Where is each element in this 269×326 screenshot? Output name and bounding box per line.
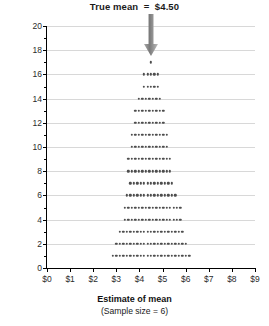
y-tick-minor (44, 62, 47, 63)
x-axis-line (46, 268, 255, 269)
data-point (115, 255, 117, 257)
data-point (143, 230, 145, 232)
y-tick-label: 16 (33, 69, 42, 79)
data-point (139, 182, 141, 184)
y-tick (43, 99, 47, 100)
data-point (138, 109, 140, 111)
x-tick (116, 268, 117, 272)
data-point (152, 134, 154, 136)
data-point (126, 230, 128, 232)
data-point (145, 134, 147, 136)
data-point (162, 134, 164, 136)
data-point (138, 158, 140, 160)
data-point (157, 230, 159, 232)
data-point (158, 134, 160, 136)
data-point (172, 206, 174, 208)
y-tick (43, 220, 47, 221)
data-point (150, 230, 152, 232)
x-tick (255, 268, 256, 272)
data-point (152, 158, 154, 160)
x-tick-label: $0 (42, 274, 51, 284)
data-point (138, 206, 140, 208)
data-point (143, 255, 145, 257)
y-tick (43, 50, 47, 51)
x-tick-label: $5 (158, 274, 167, 284)
y-tick-minor (44, 87, 47, 88)
data-point (129, 230, 131, 232)
data-point (171, 230, 173, 232)
y-tick (43, 147, 47, 148)
data-point (174, 255, 176, 257)
data-point (132, 255, 134, 257)
data-point (148, 158, 150, 160)
x-tick (186, 268, 187, 272)
data-point (167, 182, 169, 184)
data-point (134, 134, 136, 136)
data-point (148, 134, 150, 136)
data-point (181, 255, 183, 257)
y-tick (43, 26, 47, 27)
data-point (148, 206, 150, 208)
x-tick-label: $7 (204, 274, 213, 284)
x-tick (70, 268, 71, 272)
data-point (143, 182, 145, 184)
data-point (153, 255, 155, 257)
data-point (160, 255, 162, 257)
data-point (167, 255, 169, 257)
data-point (131, 206, 133, 208)
data-point (155, 134, 157, 136)
y-tick-minor (44, 38, 47, 39)
data-point (150, 85, 152, 87)
data-point (171, 255, 173, 257)
data-point (150, 255, 152, 257)
data-point (146, 255, 148, 257)
x-tick-label: $8 (227, 274, 236, 284)
data-point (129, 182, 131, 184)
data-point (146, 230, 148, 232)
y-tick-minor (44, 256, 47, 257)
data-point (152, 109, 154, 111)
data-point (141, 206, 143, 208)
data-point (153, 85, 155, 87)
data-point (158, 206, 160, 208)
data-point (157, 255, 159, 257)
data-point (122, 255, 124, 257)
data-point (119, 230, 121, 232)
data-point (124, 206, 126, 208)
data-point (179, 206, 181, 208)
data-point (169, 206, 171, 208)
data-point (150, 182, 152, 184)
data-point (136, 255, 138, 257)
x-tick-label: $1 (65, 274, 74, 284)
data-point (122, 230, 124, 232)
data-point (134, 109, 136, 111)
data-point (129, 255, 131, 257)
data-point (145, 109, 147, 111)
y-tick-label: 14 (33, 94, 42, 104)
x-tick-label: $2 (88, 274, 97, 284)
data-point (155, 158, 157, 160)
data-point (145, 158, 147, 160)
data-point (162, 109, 164, 111)
data-point (157, 182, 159, 184)
y-tick-label: 0 (37, 263, 42, 273)
data-point (127, 206, 129, 208)
data-point (152, 206, 154, 208)
data-point (164, 182, 166, 184)
y-tick-minor (44, 232, 47, 233)
data-point (127, 158, 129, 160)
data-point (126, 255, 128, 257)
x-tick (93, 268, 94, 272)
data-point (178, 255, 180, 257)
gridline-y (47, 26, 255, 27)
x-tick (209, 268, 210, 272)
x-tick (47, 268, 48, 272)
data-point (134, 158, 136, 160)
data-point (132, 182, 134, 184)
data-point (184, 255, 186, 257)
y-tick-minor (44, 111, 47, 112)
data-point (131, 134, 133, 136)
data-point (119, 255, 121, 257)
data-point (160, 182, 162, 184)
x-axis-label: Estimate of mean (0, 294, 269, 304)
